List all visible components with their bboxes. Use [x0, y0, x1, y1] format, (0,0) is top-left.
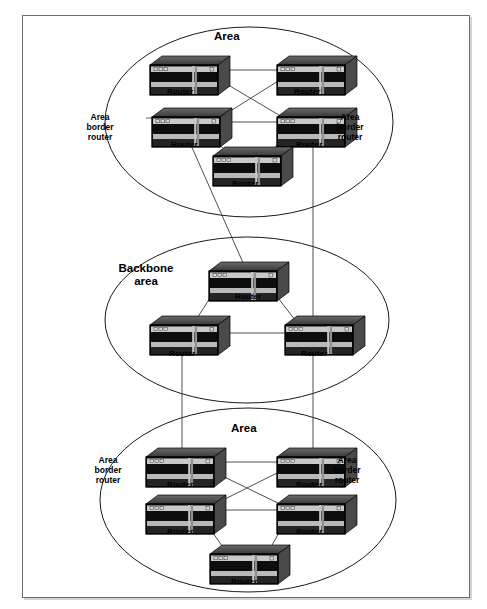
router-label: Router — [294, 88, 320, 96]
area-title-area-top: Area — [214, 30, 240, 42]
area-title-area-bottom: Area — [231, 422, 257, 434]
area-title-line1: Backbone — [119, 262, 174, 274]
router-label: Router — [167, 88, 193, 96]
router-label: Router — [171, 141, 197, 149]
router-label: Router — [167, 481, 193, 489]
router-label: Router — [169, 350, 195, 358]
area-title-backbone-area: Backbonearea — [109, 262, 183, 288]
diagram-graphics — [0, 0, 487, 609]
router-label: Router — [235, 293, 261, 301]
abr-label-abr-bottom-right: Areaborderrouter — [324, 455, 370, 485]
abr-label-abr-top-left: Areaborderrouter — [77, 112, 123, 142]
area-title-line2: area — [134, 275, 158, 287]
router-label: Router — [167, 528, 193, 536]
diagram-canvas: AreaBackboneareaAreaAreaborderrouterArea… — [0, 0, 487, 609]
router-label: Router — [231, 578, 257, 586]
router-label: Router — [296, 141, 322, 149]
router-label: Router — [296, 481, 322, 489]
router-label: Router — [232, 180, 258, 188]
router-label: Router — [296, 528, 322, 536]
abr-label-abr-top-right: Areaborderrouter — [327, 112, 373, 142]
abr-label-abr-bottom-left: Areaborderrouter — [85, 455, 131, 485]
router-label: Router — [301, 350, 327, 358]
